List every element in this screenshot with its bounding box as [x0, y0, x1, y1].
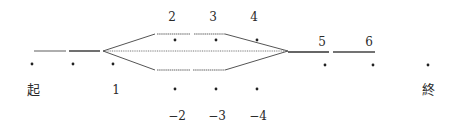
diagram-canvas [0, 0, 457, 129]
dot-minus4 [256, 88, 259, 91]
label-3: 3 [209, 11, 217, 23]
label-minus4: −4 [249, 110, 267, 122]
upper-branch-diverge [103, 34, 155, 51]
label-4: 4 [250, 11, 258, 23]
dot-end [427, 64, 430, 67]
label-1: 1 [112, 84, 120, 96]
label-minus2: −2 [168, 110, 186, 122]
dot-minus2 [174, 88, 177, 91]
upper-branch-converge [225, 34, 288, 51]
lower-branch-diverge [103, 51, 155, 70]
dot-2 [174, 39, 177, 42]
dot-3 [215, 39, 218, 42]
dot-start [31, 63, 34, 66]
dot-a [72, 63, 75, 66]
dot-minus3 [215, 88, 218, 91]
dot-5 [324, 64, 327, 67]
dot-4 [256, 39, 259, 42]
start-label: 起 [27, 84, 40, 96]
label-minus3: −3 [208, 110, 226, 122]
label-5: 5 [318, 36, 326, 48]
end-label: 終 [422, 84, 435, 96]
dot-1 [112, 63, 115, 66]
dot-6 [372, 64, 375, 67]
lower-branch-converge [225, 51, 288, 70]
label-2: 2 [168, 11, 176, 23]
label-6: 6 [365, 36, 373, 48]
